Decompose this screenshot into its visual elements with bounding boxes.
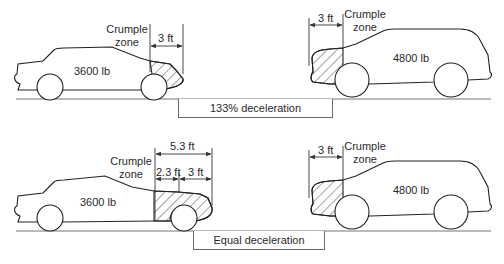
suv-crumple-label: Crumple zone (343, 140, 387, 166)
rear-wheel (434, 195, 468, 229)
diagram-canvas (0, 0, 504, 264)
crumple-label-line1: Crumple (106, 23, 148, 36)
crumple-label-line2: zone (343, 21, 387, 34)
result-label-box: Equal deceleration (193, 231, 325, 250)
rear-wheel (37, 74, 63, 100)
crumple-label-line2: zone (106, 36, 148, 49)
result-label-box: 133% deceleration (178, 99, 333, 118)
crumple-label-line2: zone (343, 153, 387, 166)
front-wheel (141, 74, 167, 100)
sedan-weight-label: 3600 lb (80, 196, 116, 209)
suv-crumple-length: 3 ft (318, 144, 333, 157)
sedan-crumple-label: Crumple zone (106, 23, 148, 49)
sedan-crumple-length: 3 ft (158, 32, 173, 45)
sedan-weight-label: 3600 lb (74, 65, 110, 78)
crumple-label-line1: Crumple (110, 155, 152, 168)
front-wheel (171, 205, 197, 231)
sedan-total-crumple-length: 5.3 ft (170, 140, 194, 153)
sedan-extra-crumple-length: 2.3 ft (156, 166, 180, 179)
suv-weight-label: 4800 lb (393, 184, 429, 197)
sedan-base-crumple-length: 3 ft (188, 166, 203, 179)
rear-wheel (37, 205, 63, 231)
crumple-label-line1: Crumple (343, 8, 387, 21)
sedan-crumple-label: Crumple zone (110, 155, 152, 181)
crumple-label-line1: Crumple (343, 140, 387, 153)
suv-crumple-length: 3 ft (318, 12, 333, 25)
front-wheel (335, 63, 369, 97)
rear-wheel (434, 63, 468, 97)
front-wheel (335, 195, 369, 229)
crumple-label-line2: zone (110, 168, 152, 181)
suv-crumple-label: Crumple zone (343, 8, 387, 34)
suv-weight-label: 4800 lb (393, 52, 429, 65)
